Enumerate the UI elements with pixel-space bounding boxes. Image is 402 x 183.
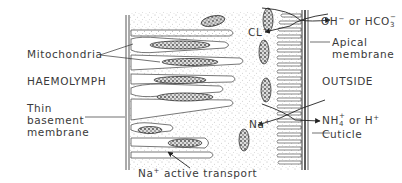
- basement-membrane: [126, 15, 129, 170]
- or-hco-text: or HCO: [345, 15, 390, 27]
- cl-charge: −: [262, 26, 268, 34]
- basement-line-3: membrane: [27, 126, 89, 138]
- h-charge: +: [373, 114, 379, 122]
- label-na: Na+: [249, 118, 271, 130]
- label-outside: OUTSIDE: [322, 75, 373, 87]
- or-h-text: or H: [345, 114, 373, 126]
- basement-line-1: Thin: [27, 102, 89, 114]
- oh-text: OH: [321, 15, 338, 27]
- cell-diagram: Mitochondria HAEMOLYMPH Thin basement me…: [0, 0, 402, 183]
- cuticle-text: Cuticle: [322, 128, 362, 140]
- hco3-subsup: −3: [390, 17, 396, 27]
- outside-text: OUTSIDE: [322, 75, 373, 87]
- na-inside-text: Na: [249, 118, 265, 130]
- na-inside-charge: +: [265, 118, 271, 126]
- active-transport-text: active transport: [160, 167, 257, 179]
- label-oh-hco3: OH− or HCO−3: [321, 15, 396, 27]
- label-na-active-transport: Na+ active transport: [138, 167, 257, 179]
- basement-line-2: basement: [27, 114, 89, 126]
- label-nh4-h: NH+4 or H+: [322, 114, 380, 126]
- label-cl: CL−: [248, 26, 269, 38]
- label-apical-membrane: Apical membrane: [332, 36, 394, 60]
- apical-line-2: membrane: [332, 48, 394, 60]
- mitochondria-text: Mitochondria: [27, 48, 103, 60]
- cuticle-layer: [302, 10, 308, 170]
- nh4-subscript: 4: [339, 120, 344, 128]
- cl-text: CL: [248, 26, 262, 38]
- hco3-subscript: 3: [390, 21, 395, 29]
- label-haemolymph: HAEMOLYMPH: [27, 75, 106, 87]
- apical-line-1: Apical: [332, 36, 394, 48]
- haemolymph-text: HAEMOLYMPH: [27, 75, 106, 87]
- hco3-charge: −: [390, 13, 396, 21]
- label-basement-membrane: Thin basement membrane: [27, 102, 89, 138]
- label-cuticle: Cuticle: [322, 128, 362, 140]
- label-mitochondria: Mitochondria: [27, 48, 103, 60]
- na-text: Na: [138, 167, 154, 179]
- nh-text: NH: [322, 114, 339, 126]
- diagram-drawing: [0, 0, 402, 183]
- nh4-charge: +: [339, 112, 345, 120]
- nh4-subsup: +4: [339, 116, 345, 126]
